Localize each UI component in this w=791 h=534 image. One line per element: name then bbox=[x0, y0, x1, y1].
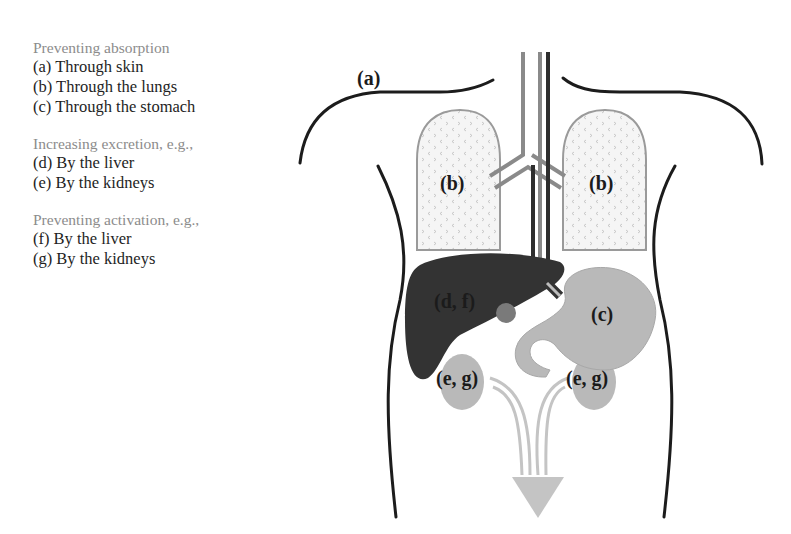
torso-right-outline bbox=[654, 166, 675, 517]
label-kidney-right: (e, g) bbox=[566, 367, 608, 390]
trachea bbox=[490, 52, 565, 176]
liver bbox=[405, 253, 564, 379]
label-lung-left: (b) bbox=[440, 172, 464, 195]
ureter-right-outer bbox=[546, 387, 565, 475]
excretion-arrow-icon bbox=[512, 477, 564, 518]
label-stomach: (c) bbox=[591, 303, 613, 326]
ureter-left-inner bbox=[490, 378, 530, 475]
gallbladder bbox=[496, 303, 516, 323]
label-lung-right: (b) bbox=[589, 172, 613, 195]
bronchi-inner bbox=[495, 167, 561, 188]
body-diagram: (a) (b) (b) (d, f) (c) (e, g) (e, g) bbox=[0, 0, 791, 534]
torso-left-outline bbox=[378, 166, 404, 517]
label-liver: (d, f) bbox=[434, 290, 475, 313]
label-skin: (a) bbox=[357, 67, 380, 90]
ureter-right-inner bbox=[537, 378, 568, 475]
label-kidney-left: (e, g) bbox=[436, 367, 478, 390]
